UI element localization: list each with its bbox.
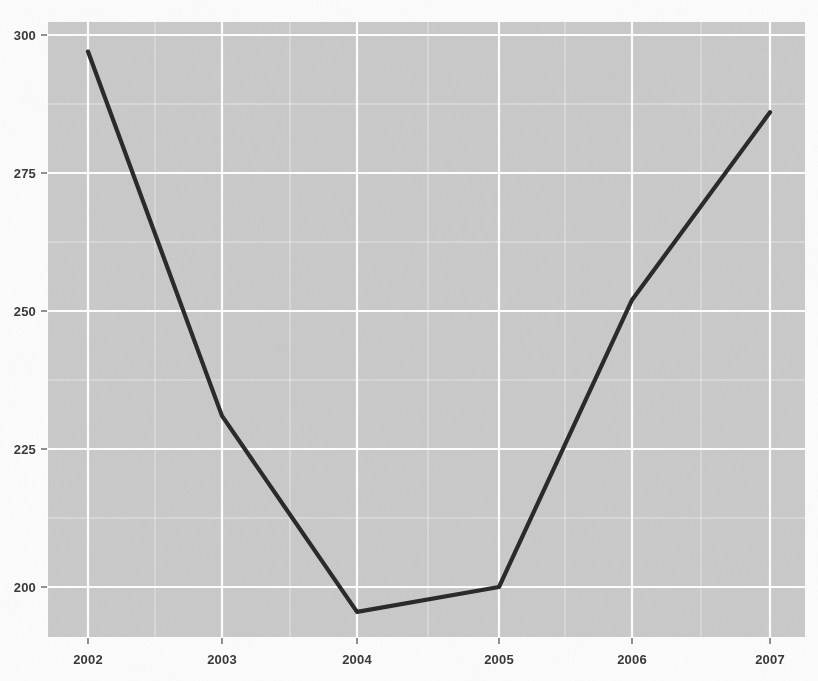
y-tick-label-200: 200	[0, 580, 36, 595]
y-tick-label-300: 300	[0, 28, 36, 43]
x-tick-label-2004: 2004	[342, 652, 372, 667]
x-axis-ticks	[88, 638, 770, 644]
x-tick-label-2006: 2006	[617, 652, 647, 667]
plot-panel	[48, 22, 805, 637]
x-tick-label-2002: 2002	[73, 652, 103, 667]
x-tick-label-2003: 2003	[207, 652, 237, 667]
plot-area	[0, 0, 818, 681]
y-tick-label-225: 225	[0, 442, 36, 457]
y-tick-label-275: 275	[0, 166, 36, 181]
line-chart-figure: 300 275 250 225 200 2002 2003 2004 2005 …	[0, 0, 818, 681]
y-tick-label-250: 250	[0, 304, 36, 319]
y-axis-ticks	[41, 35, 47, 587]
x-tick-label-2005: 2005	[484, 652, 514, 667]
x-tick-label-2007: 2007	[755, 652, 785, 667]
